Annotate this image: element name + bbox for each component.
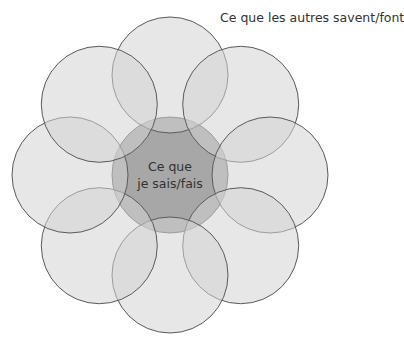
center-label: Ce que je sais/fais xyxy=(120,158,220,192)
center-label-line1: Ce que xyxy=(120,158,220,175)
outer-circle xyxy=(41,46,157,162)
center-label-line2: je sais/fais xyxy=(120,175,220,192)
outer-label: Ce que les autres savent/font xyxy=(220,10,404,25)
